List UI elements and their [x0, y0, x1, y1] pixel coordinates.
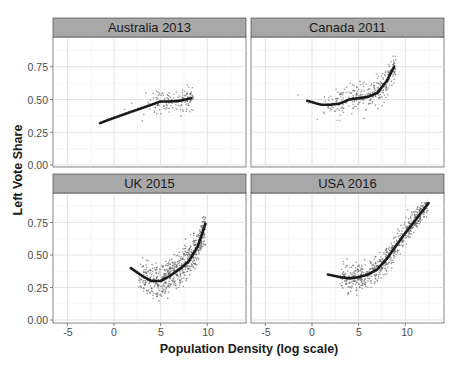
y-tick-label: 0.25	[28, 127, 49, 139]
y-tick-label: 0.25	[28, 282, 49, 294]
facet-panel: Australia 2013	[50, 18, 246, 167]
x-tick-label: 10	[202, 326, 214, 338]
facet-panel: USA 2016	[251, 174, 444, 326]
plot-area	[53, 37, 246, 167]
y-tick-label: 0.75	[28, 217, 49, 229]
x-tick-label: -5	[261, 326, 270, 338]
y-tick-label: 0.75	[28, 61, 49, 73]
x-axis-right: -5 0 5 10	[261, 326, 413, 338]
y-tick-label: 0.00	[28, 314, 49, 326]
facet-label: UK 2015	[124, 176, 175, 191]
x-tick-label: 5	[158, 326, 164, 338]
x-tick-label: 0	[111, 326, 117, 338]
x-tick-label: 5	[356, 326, 362, 338]
y-tick-label: 0.50	[28, 94, 49, 106]
y-tick-label: 0.50	[28, 249, 49, 261]
x-axis-left: -5 0 5 10	[63, 326, 214, 338]
y-axis-top: 0.75 0.50 0.25 0.00	[28, 61, 49, 171]
plot-area	[251, 37, 444, 167]
facet-label: USA 2016	[318, 176, 377, 191]
facet-label: Canada 2011	[309, 20, 386, 35]
y-axis-title: Left Vote Share	[11, 125, 25, 216]
facet-panel: UK 2015	[50, 174, 246, 326]
x-tick-label: 10	[401, 326, 413, 338]
y-tick-label: 0.00	[28, 159, 49, 171]
x-tick-label: 0	[309, 326, 315, 338]
panels: Australia 2013Canada 2011UK 2015USA 2016	[50, 18, 444, 326]
x-axis-title: Population Density (log scale)	[160, 342, 339, 356]
y-axis-bottom: 0.75 0.50 0.25 0.00	[28, 217, 49, 326]
facet-label: Australia 2013	[108, 20, 191, 35]
x-tick-label: -5	[63, 326, 72, 338]
faceted-scatter-chart: Australia 2013Canada 2011UK 2015USA 2016…	[0, 0, 458, 366]
facet-panel: Canada 2011	[251, 18, 444, 167]
